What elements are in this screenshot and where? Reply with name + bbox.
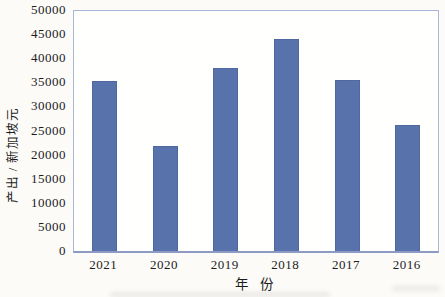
bar-chart-figure: 产出 / 新加坡元 050001000015000200002500030000… — [0, 0, 445, 297]
x-axis-tick-label: 2016 — [377, 257, 437, 273]
bar-2018 — [274, 39, 299, 251]
y-axis-tick-label: 0 — [0, 243, 66, 259]
y-axis-tick-label: 30000 — [0, 98, 66, 114]
cutoff-caption-artifact — [110, 292, 330, 297]
y-axis-tick-label: 35000 — [0, 74, 66, 90]
bar-2016 — [395, 125, 420, 251]
y-axis-tick-label: 25000 — [0, 123, 66, 139]
x-axis-tick-label: 2017 — [316, 257, 376, 273]
y-axis-tick-label: 40000 — [0, 50, 66, 66]
y-axis-tick-label: 5000 — [0, 219, 66, 235]
y-axis-tick-label: 15000 — [0, 171, 66, 187]
y-axis-tick-label: 50000 — [0, 2, 66, 18]
bar-2020 — [153, 146, 178, 251]
x-axis-tick-label: 2020 — [134, 257, 194, 273]
plot-area — [73, 10, 439, 253]
y-axis-tick-label: 45000 — [0, 26, 66, 42]
x-axis-tick-label: 2021 — [73, 257, 133, 273]
y-axis-tick-label: 20000 — [0, 147, 66, 163]
bar-2019 — [213, 68, 238, 251]
bar-2017 — [335, 80, 360, 251]
x-axis-title: 年 份 — [0, 273, 445, 293]
scan-smudge-artifact — [392, 286, 440, 291]
x-axis-tick-label: 2018 — [255, 257, 315, 273]
y-axis-tick-label: 10000 — [0, 195, 66, 211]
x-axis-tick-label: 2019 — [195, 257, 255, 273]
bar-2021 — [92, 81, 117, 251]
